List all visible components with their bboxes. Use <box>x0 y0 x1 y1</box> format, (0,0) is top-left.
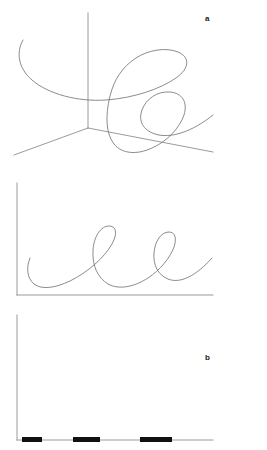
panel-c-plot <box>0 305 267 450</box>
panel-a-label: a <box>205 15 209 23</box>
panel-c-bar-2 <box>73 437 100 442</box>
panel-a: a <box>0 0 267 170</box>
figure-container: a b c <box>0 0 267 450</box>
panel-c-bar-1 <box>22 437 42 442</box>
panel-a-y-axis <box>14 128 88 155</box>
panel-a-plot <box>0 0 267 170</box>
panel-b-trajectory-curve <box>28 226 212 288</box>
panel-b: b <box>0 170 267 310</box>
panel-b-plot <box>0 170 267 310</box>
panel-c: c <box>0 305 267 450</box>
panel-a-trajectory-curve <box>19 40 213 153</box>
panel-c-bar-3 <box>140 437 172 442</box>
